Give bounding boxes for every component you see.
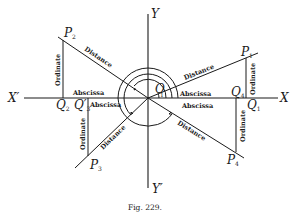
y-neg-axis-label: Y′ [152,182,163,196]
abscissa-label-p2: Abscissa [72,89,105,97]
x-neg-axis-label: X′ [7,91,20,105]
ordinate-label-p4: Ordinate [239,110,247,142]
foot-label-q1: Q1 [247,98,261,112]
point-label-p1: P1 [240,45,253,59]
point-label-p2: P2 [63,26,76,40]
coordinate-diagram: X X′ Y Y′ O Distance Ordinate Abscissa P… [0,0,295,215]
ordinate-label-p2: Ordinate [54,54,62,86]
abscissa-label-p4: Abscissa [181,102,214,110]
figure-caption: Fig. 229. [128,203,162,212]
x-axis-label: X [279,91,289,105]
ordinate-label-p3: Ordinate [79,118,87,150]
distance-label-p4: Distance [176,119,207,143]
point-label-p4: P4 [226,153,239,167]
angle-marker: 1 [160,91,164,98]
point-label-p3: P3 [89,158,102,172]
ordinate-label-p1: Ordinate [249,63,257,95]
abscissa-label-p1: Abscissa [179,90,212,98]
foot-label-q2: Q2 [56,98,70,112]
distance-label-p3: Distance [99,124,127,152]
foot-label-q4: Q4 [231,85,245,99]
y-axis-label: Y [151,7,160,21]
arrowhead-p2 [134,88,136,90]
abscissa-label-p3: Abscissa [89,101,122,109]
